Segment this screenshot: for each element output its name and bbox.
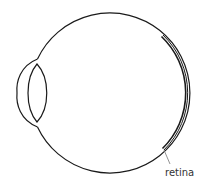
eyeball-outline	[38, 13, 190, 173]
eye-diagram: retina	[0, 0, 199, 185]
retina-layer	[162, 37, 186, 149]
retina-label: retina	[165, 167, 194, 178]
cornea	[17, 59, 38, 127]
lens	[28, 64, 47, 122]
retina-leader-line	[164, 150, 170, 164]
